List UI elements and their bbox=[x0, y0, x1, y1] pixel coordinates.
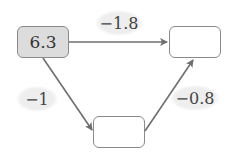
start-value-box: 6.3 bbox=[17, 26, 69, 58]
edge-label-middle-to-end: −0.8 bbox=[170, 85, 220, 111]
start-value: 6.3 bbox=[29, 32, 56, 52]
middle-value-box[interactable] bbox=[93, 116, 145, 148]
edge-label-start-to-end: −1.8 bbox=[95, 10, 143, 36]
flow-diagram: 6.3 −1.8 −1 −0.8 bbox=[0, 0, 232, 162]
end-value-box[interactable] bbox=[169, 26, 221, 58]
edge-label-start-to-middle: −1 bbox=[16, 86, 58, 112]
